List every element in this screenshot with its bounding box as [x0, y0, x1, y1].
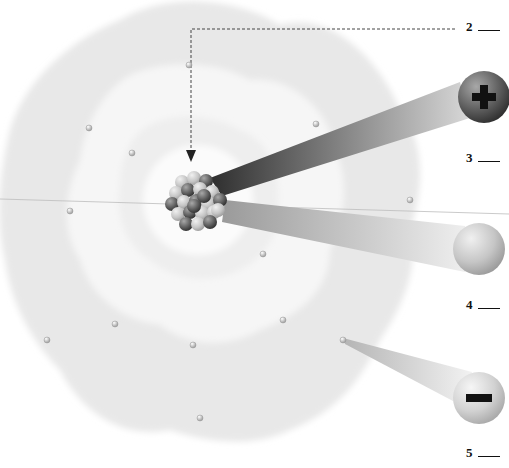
electron-dot — [313, 121, 319, 127]
proton-sphere — [458, 71, 509, 123]
label-5-electron: 5 — [466, 445, 500, 461]
electron-dot — [190, 342, 196, 348]
label-number: 3 — [466, 150, 473, 165]
nucleus-proton — [179, 217, 193, 231]
label-number: 2 — [466, 19, 473, 34]
electron-dot — [67, 208, 73, 214]
minus-icon — [466, 394, 492, 402]
label-4-neutron: 4 — [466, 297, 500, 313]
nucleus-proton — [203, 215, 217, 229]
answer-blank[interactable] — [478, 20, 500, 31]
electron-dot — [407, 197, 413, 203]
label-number: 5 — [466, 445, 473, 460]
label-2-nucleus: 2 — [466, 19, 500, 35]
electron-dot — [129, 150, 135, 156]
atom-diagram — [0, 0, 509, 468]
electron-sphere — [453, 372, 505, 424]
answer-blank[interactable] — [478, 298, 500, 309]
label-number: 4 — [466, 297, 473, 312]
electron-dot — [112, 321, 118, 327]
label-3-proton: 3 — [466, 150, 500, 166]
electron-dot — [197, 415, 203, 421]
neutron-sphere — [453, 223, 505, 275]
nucleus-proton — [187, 199, 201, 213]
answer-blank[interactable] — [478, 446, 500, 457]
electron-dot — [186, 62, 192, 68]
nucleus-neutron — [191, 217, 205, 231]
nucleus-neutron — [211, 203, 225, 217]
electron-dot — [260, 251, 266, 257]
electron-dot — [86, 125, 92, 131]
nucleus-proton — [197, 189, 211, 203]
electron-dot — [280, 317, 286, 323]
answer-blank[interactable] — [478, 151, 500, 162]
electron-pointer-beam — [343, 338, 472, 410]
electron-dot — [44, 337, 50, 343]
electron-dot — [340, 337, 346, 343]
